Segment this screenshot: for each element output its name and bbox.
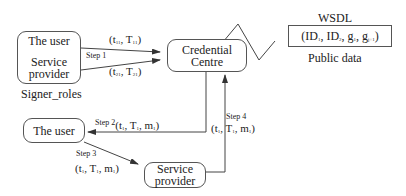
wsdl-title: WSDL (318, 12, 352, 24)
step4-tuple: (t1, T1, m1) (211, 123, 255, 134)
provider-label: provider (155, 175, 196, 187)
step1-label: Step 1 (86, 52, 106, 60)
step2-tuple: (t1, T1, m1) (115, 119, 159, 131)
public-data-caption: Public data (308, 52, 362, 64)
step3-tuple: (t1, T1, m1) (75, 163, 119, 174)
wsdl-box: (ID1, ID2, g1, gj+1) (288, 25, 392, 47)
user-box: The user (23, 118, 85, 143)
credential-label: Credential (182, 44, 232, 56)
step2-label-group: Step 2(t1, T1, m1) (95, 116, 159, 132)
user-label: The user (33, 125, 75, 137)
wsdl-content: (ID1, ID2, g1, gj+1) (301, 30, 379, 42)
step4-label: Step 4 (226, 113, 246, 121)
credential-centre-box: Credential Centre (167, 39, 247, 72)
step1-lower-tuple: (t21, T21) (109, 66, 141, 77)
centre-label: Centre (191, 56, 223, 68)
service-provider-box: Service provider (144, 162, 206, 188)
signer-roles-caption: Signer_roles (21, 88, 82, 100)
signer-provider-label: provider (29, 68, 70, 80)
step1-upper-tuple: (t11, T11) (109, 34, 141, 45)
step2-label: Step 2 (95, 118, 115, 127)
step3-label: Step 3 (76, 150, 96, 158)
signer-user-label: The user (28, 35, 70, 47)
signer-roles-box: The user Service provider (17, 31, 81, 84)
